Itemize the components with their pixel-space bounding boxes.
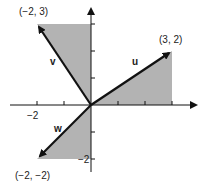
vector-label-u: u — [132, 57, 138, 67]
vector-label-w: w — [54, 124, 62, 134]
vector-label-v: v — [50, 57, 56, 67]
x-tick-label-neg2: −2 — [27, 111, 38, 121]
tip-label-w: (−2, −2) — [15, 171, 50, 181]
y-ticks — [91, 24, 95, 159]
tip-label-v: (−2, 3) — [19, 7, 48, 17]
y-axis-arrow-icon — [87, 7, 95, 15]
tip-label-u: (3, 2) — [159, 35, 182, 45]
vector-diagram — [0, 0, 210, 188]
y-tick-label-neg2: −2 — [78, 155, 89, 165]
x-axis-arrow-icon — [190, 101, 198, 109]
